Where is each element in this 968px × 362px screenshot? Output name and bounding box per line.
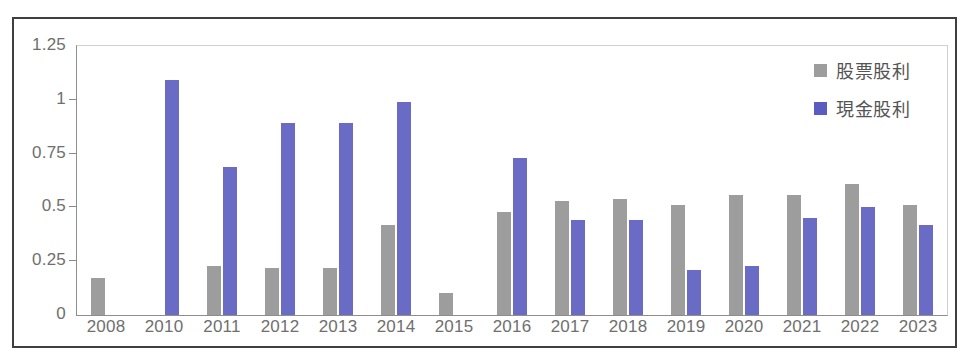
bar-cash-2020[interactable] bbox=[745, 266, 759, 315]
x-tick-label-2020: 2020 bbox=[715, 317, 773, 337]
bar-stock-2012[interactable] bbox=[265, 268, 279, 315]
x-tick-label-2010: 2010 bbox=[135, 317, 193, 337]
bar-cash-2019[interactable] bbox=[687, 270, 701, 315]
bar-group bbox=[135, 46, 193, 315]
bar-stock-2013[interactable] bbox=[323, 268, 337, 315]
bar-group bbox=[77, 46, 135, 315]
x-tick-label-2017: 2017 bbox=[541, 317, 599, 337]
x-tick-label-2023: 2023 bbox=[889, 317, 947, 337]
bar-stock-2019[interactable] bbox=[671, 205, 685, 315]
bar-cash-2010[interactable] bbox=[165, 80, 179, 315]
bar-group bbox=[193, 46, 251, 315]
bar-cash-2021[interactable] bbox=[803, 218, 817, 315]
x-tick-label-2011: 2011 bbox=[193, 317, 251, 337]
bar-cash-2022[interactable] bbox=[861, 207, 875, 315]
bar-stock-2020[interactable] bbox=[729, 195, 743, 316]
x-tick-label-2013: 2013 bbox=[309, 317, 367, 337]
legend-label: 股票股利 bbox=[836, 57, 910, 83]
bar-group bbox=[251, 46, 309, 315]
x-tick-label-2018: 2018 bbox=[599, 317, 657, 337]
bar-group bbox=[483, 46, 541, 315]
legend-item-cash[interactable]: 現金股利 bbox=[814, 95, 910, 121]
x-tick-label-2008: 2008 bbox=[77, 317, 135, 337]
bar-cash-2014[interactable] bbox=[397, 102, 411, 315]
bar-stock-2014[interactable] bbox=[381, 225, 395, 315]
bar-group bbox=[367, 46, 425, 315]
y-axis-tick-mark bbox=[69, 206, 76, 207]
x-tick-label-2021: 2021 bbox=[773, 317, 831, 337]
bar-stock-2008[interactable] bbox=[91, 278, 105, 315]
bar-group bbox=[657, 46, 715, 315]
bar-group bbox=[715, 46, 773, 315]
bar-cash-2011[interactable] bbox=[223, 167, 237, 315]
y-tick-label: 1 bbox=[56, 89, 66, 109]
y-axis-tick-mark bbox=[69, 99, 76, 100]
bar-cash-2013[interactable] bbox=[339, 123, 353, 315]
y-tick-label: 0.75 bbox=[32, 143, 66, 163]
bar-group bbox=[309, 46, 367, 315]
legend-label: 現金股利 bbox=[836, 95, 910, 121]
legend-swatch-icon-stock bbox=[814, 64, 827, 77]
y-tick-label: 0 bbox=[56, 304, 66, 324]
x-axis-tick-labels: 2008201020112012201320142015201620172018… bbox=[77, 317, 947, 337]
legend-swatch-icon-cash bbox=[814, 102, 827, 115]
bar-cash-2017[interactable] bbox=[571, 220, 585, 315]
bar-stock-2023[interactable] bbox=[903, 205, 917, 315]
legend-item-stock[interactable]: 股票股利 bbox=[814, 57, 910, 83]
y-tick-label: 1.25 bbox=[32, 35, 66, 55]
chart-legend: 股票股利現金股利 bbox=[814, 57, 910, 121]
bar-stock-2016[interactable] bbox=[497, 212, 511, 315]
bar-stock-2017[interactable] bbox=[555, 201, 569, 315]
x-tick-label-2014: 2014 bbox=[367, 317, 425, 337]
bar-stock-2021[interactable] bbox=[787, 195, 801, 316]
y-axis-tick-mark bbox=[69, 153, 76, 154]
x-tick-label-2022: 2022 bbox=[831, 317, 889, 337]
y-axis-tick-mark bbox=[69, 260, 76, 261]
x-tick-label-2015: 2015 bbox=[425, 317, 483, 337]
bar-group bbox=[599, 46, 657, 315]
bar-stock-2022[interactable] bbox=[845, 184, 859, 315]
x-tick-label-2019: 2019 bbox=[657, 317, 715, 337]
y-tick-label: 0.25 bbox=[32, 250, 66, 270]
chart-figure: 1.25 1 0.75 0.5 0.25 0 20082010201120122… bbox=[12, 17, 957, 348]
y-axis-tick-labels: 1.25 1 0.75 0.5 0.25 0 bbox=[22, 19, 66, 346]
bar-cash-2012[interactable] bbox=[281, 123, 295, 315]
x-tick-label-2012: 2012 bbox=[251, 317, 309, 337]
bar-cash-2018[interactable] bbox=[629, 220, 643, 315]
bar-stock-2018[interactable] bbox=[613, 199, 627, 315]
bar-stock-2015[interactable] bbox=[439, 293, 453, 315]
x-tick-label-2016: 2016 bbox=[483, 317, 541, 337]
bar-group bbox=[541, 46, 599, 315]
bar-stock-2011[interactable] bbox=[207, 266, 221, 315]
y-tick-label: 0.5 bbox=[42, 196, 66, 216]
bar-cash-2023[interactable] bbox=[919, 225, 933, 315]
bar-group bbox=[425, 46, 483, 315]
bar-cash-2016[interactable] bbox=[513, 158, 527, 315]
plot-wrapper: 1.25 1 0.75 0.5 0.25 0 20082010201120122… bbox=[14, 19, 955, 346]
